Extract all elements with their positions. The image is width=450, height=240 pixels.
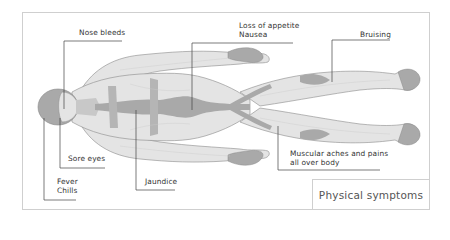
diagram-title: Physical symptoms: [319, 189, 423, 201]
muscular-aches-line2-text: all over body: [290, 158, 388, 167]
label-muscular-aches: Muscular aches and pains all over body: [290, 149, 388, 167]
fever-text: Fever: [57, 177, 78, 186]
chills-text: Chills: [57, 186, 78, 195]
label-loss-of-appetite-nausea: Loss of appetite Nausea: [239, 21, 300, 39]
label-bruising: Bruising: [360, 30, 391, 39]
label-sore-eyes: Sore eyes: [68, 154, 105, 163]
label-fever-chills: Fever Chills: [57, 177, 78, 195]
label-jaundice: Jaundice: [145, 177, 177, 186]
muscular-aches-line1-text: Muscular aches and pains: [290, 149, 388, 158]
loss-of-appetite-text: Loss of appetite: [239, 21, 300, 30]
title-box: Physical symptoms: [312, 179, 430, 210]
label-nose-bleeds: Nose bleeds: [79, 28, 125, 37]
bruising-text: Bruising: [360, 30, 391, 39]
sore-eyes-text: Sore eyes: [68, 154, 105, 163]
nausea-text: Nausea: [239, 30, 300, 39]
jaundice-text: Jaundice: [145, 177, 177, 186]
body-illustration: [38, 48, 420, 165]
nose-bleeds-text: Nose bleeds: [79, 28, 125, 37]
